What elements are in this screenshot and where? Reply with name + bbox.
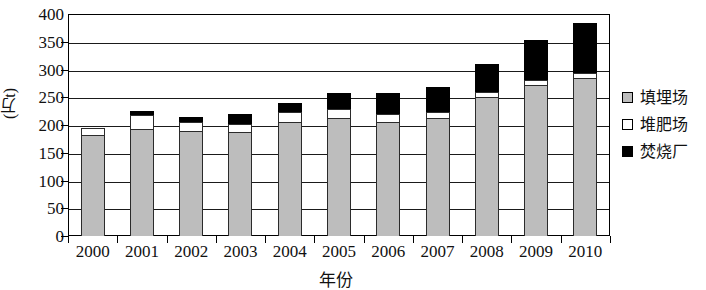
bar-segment-incin[interactable]: [573, 23, 597, 72]
y-axis-tick-mark: [61, 42, 68, 43]
bar-segment-compost[interactable]: [327, 109, 351, 118]
x-axis-tick-mark: [265, 236, 266, 243]
x-axis-tick-mark: [68, 236, 69, 243]
bar-segment-incin[interactable]: [475, 64, 499, 92]
bar-stack[interactable]: [278, 103, 302, 236]
x-axis-tick-mark: [511, 236, 512, 243]
bar-segment-incin[interactable]: [327, 93, 351, 110]
y-axis-tick-label: 300: [4, 61, 64, 78]
bar-segment-landfill[interactable]: [376, 122, 400, 236]
bar-segment-compost[interactable]: [376, 114, 400, 122]
bar-segment-compost[interactable]: [278, 112, 302, 122]
y-axis-tick-label: 150: [4, 144, 64, 161]
bar-segment-landfill[interactable]: [327, 118, 351, 236]
bar-stack[interactable]: [475, 64, 499, 236]
bar-stack[interactable]: [130, 111, 154, 236]
x-axis-tick-mark: [314, 236, 315, 243]
bar-stack[interactable]: [524, 40, 548, 236]
legend-swatch-compost-icon: [622, 119, 633, 130]
x-axis-tick-mark: [216, 236, 217, 243]
bar-segment-landfill[interactable]: [228, 132, 252, 236]
bar-segment-landfill[interactable]: [278, 122, 302, 236]
y-axis-tick-mark: [61, 70, 68, 71]
legend: 填埋场堆肥场焚烧厂: [622, 84, 706, 165]
bar-segment-compost[interactable]: [228, 124, 252, 132]
bar-segment-incin[interactable]: [376, 93, 400, 115]
y-axis-tick-label: 100: [4, 172, 64, 189]
bar-segment-landfill[interactable]: [573, 78, 597, 236]
y-axis-tick-label: 200: [4, 117, 64, 134]
legend-item[interactable]: 填埋场: [622, 84, 706, 111]
y-axis-tick-mark: [61, 208, 68, 209]
x-axis-tick-mark: [117, 236, 118, 243]
x-axis-tick-mark: [364, 236, 365, 243]
bar-stack[interactable]: [81, 128, 105, 236]
x-axis-tick-mark: [610, 236, 611, 243]
y-axis-tick-mark: [61, 153, 68, 154]
bar-stack[interactable]: [179, 117, 203, 236]
bar-segment-incin[interactable]: [426, 87, 450, 111]
x-axis-tick-mark: [167, 236, 168, 243]
x-axis-tick-mark: [413, 236, 414, 243]
bar-segment-landfill[interactable]: [426, 118, 450, 236]
x-axis-title: 年份: [0, 266, 706, 290]
legend-label: 填埋场: [640, 90, 688, 106]
bar-segment-landfill[interactable]: [524, 85, 548, 236]
bar-stack[interactable]: [327, 93, 351, 236]
legend-swatch-landfill-icon: [622, 92, 633, 103]
bar-segment-landfill[interactable]: [179, 131, 203, 236]
bar-segment-compost[interactable]: [179, 122, 203, 131]
legend-item[interactable]: 焚烧厂: [622, 138, 706, 165]
y-axis-tick-mark: [61, 97, 68, 98]
bar-stack[interactable]: [426, 87, 450, 236]
legend-label: 堆肥场: [640, 117, 688, 133]
bar-series-group: [68, 14, 610, 236]
bar-segment-landfill[interactable]: [475, 97, 499, 236]
y-axis-tick-mark: [61, 236, 68, 237]
x-axis-tick-mark: [462, 236, 463, 243]
legend-swatch-incin-icon: [622, 146, 633, 157]
y-axis-tick-mark: [61, 125, 68, 126]
x-axis-tick-mark: [561, 236, 562, 243]
x-axis-title-text: 年份: [319, 266, 353, 290]
bar-segment-landfill[interactable]: [130, 129, 154, 236]
chart-container: (万t) 400350300250200150100500 2000200120…: [0, 0, 706, 290]
bar-segment-landfill[interactable]: [81, 135, 105, 236]
bar-segment-compost[interactable]: [130, 115, 154, 129]
y-axis-tick-mark: [61, 181, 68, 182]
bar-segment-incin[interactable]: [524, 40, 548, 80]
bar-segment-incin[interactable]: [278, 103, 302, 112]
bar-segment-compost[interactable]: [81, 128, 105, 135]
y-axis-tick-label: 250: [4, 89, 64, 106]
x-axis-tick-label: 2010: [555, 243, 615, 262]
legend-label: 焚烧厂: [640, 144, 688, 160]
y-axis-tick-label: 50: [4, 200, 64, 217]
bar-segment-incin[interactable]: [228, 114, 252, 123]
legend-item[interactable]: 堆肥场: [622, 111, 706, 138]
bar-stack[interactable]: [376, 93, 400, 236]
y-axis-tick-label: 0: [4, 228, 64, 245]
y-axis-tick-label: 400: [4, 6, 64, 23]
bar-stack[interactable]: [573, 23, 597, 236]
y-axis-tick-label: 350: [4, 33, 64, 50]
bar-stack[interactable]: [228, 114, 252, 236]
